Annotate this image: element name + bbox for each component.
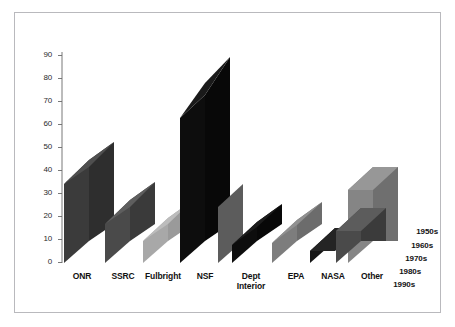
y-tick-label: 20 xyxy=(30,212,52,220)
bar-other-1980s xyxy=(336,208,386,263)
y-tick-label: 80 xyxy=(30,74,52,82)
x-category-label-epa: EPA xyxy=(276,272,316,282)
y-tick-label: 40 xyxy=(30,166,52,174)
legend-item-1980s: 1980s xyxy=(381,267,421,276)
x-category-label-dept-interior: Dept Interior xyxy=(227,272,275,291)
x-category-label-fulbright: Fulbright xyxy=(137,272,189,282)
figure: 90 80 70 60 50 40 30 20 10 0 ONR SSRC Fu… xyxy=(0,0,455,327)
y-tick-label: 10 xyxy=(30,235,52,243)
y-tick-label: 30 xyxy=(30,189,52,197)
x-category-label-onr: ONR xyxy=(62,272,102,282)
x-category-label-dept-interior-line1: Dept xyxy=(242,271,261,281)
y-tick-label: 60 xyxy=(30,120,52,128)
y-axis-ticks xyxy=(58,56,62,263)
x-category-label-nsf: NSF xyxy=(185,272,225,282)
x-category-label-dept-interior-line2: Interior xyxy=(237,281,265,291)
y-tick-label: 50 xyxy=(30,143,52,151)
legend-item-1990s: 1990s xyxy=(375,280,415,289)
x-category-label-nasa: NASA xyxy=(312,272,354,282)
legend-item-1950s: 1950s xyxy=(398,227,438,236)
y-tick-label: 0 xyxy=(30,258,52,266)
y-tick-label: 90 xyxy=(30,51,52,59)
legend-item-1970s: 1970s xyxy=(387,254,427,263)
legend-item-1960s: 1960s xyxy=(393,241,433,250)
y-tick-label: 70 xyxy=(30,97,52,105)
